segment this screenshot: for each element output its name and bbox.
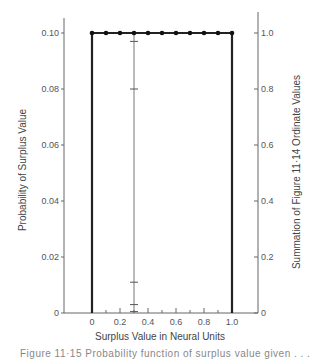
data-point-marker [216, 31, 221, 36]
data-point-marker [160, 31, 165, 36]
data-point-marker [104, 31, 109, 36]
data-point-marker [132, 31, 137, 36]
x-tick-label: 0.8 [198, 317, 211, 327]
data-point-marker [90, 31, 95, 36]
y-tick-label-right: 0.6 [261, 140, 274, 150]
x-tick-label: 1.0 [226, 317, 239, 327]
y-axis-title-left: Probability of Surplus Value [17, 109, 28, 232]
x-tick-label: 0.4 [142, 317, 155, 327]
data-point-marker [118, 31, 123, 36]
ticks: 00.020.040.060.080.1000.20.40.60.81.000.… [41, 28, 273, 327]
y-tick-label-right: 0 [261, 308, 266, 318]
y-tick-label-left: 0.06 [41, 140, 59, 150]
y-tick-label-left: 0.10 [41, 28, 59, 38]
figure-caption: Figure 11·15 Probability function of sur… [20, 348, 310, 359]
y-tick-label-left: 0.02 [41, 252, 59, 262]
data-point-marker [188, 31, 193, 36]
x-tick-label: 0.2 [114, 317, 127, 327]
data-point-marker [174, 31, 179, 36]
x-tick-label: 0 [89, 317, 94, 327]
y-tick-label-right: 0.4 [261, 196, 274, 206]
y-tick-label-right: 1.0 [261, 28, 274, 38]
y-tick-label-right: 0.2 [261, 252, 274, 262]
data-point-marker [146, 31, 151, 36]
y-tick-label-left: 0.04 [41, 196, 59, 206]
x-axis-title: Surplus Value in Neural Units [95, 331, 225, 342]
y-tick-label-right: 0.8 [261, 84, 274, 94]
y-axis-title-right: Summation of Figure 11·14 Ordinate Value… [291, 75, 302, 269]
data-series [90, 31, 235, 313]
x-tick-label: 0.6 [170, 317, 183, 327]
data-point-marker [230, 31, 235, 36]
chart: 00.020.040.060.080.1000.20.40.60.81.000.… [0, 0, 317, 359]
y-tick-label-left: 0.08 [41, 84, 59, 94]
data-point-marker [202, 31, 207, 36]
y-tick-label-left: 0 [54, 308, 59, 318]
